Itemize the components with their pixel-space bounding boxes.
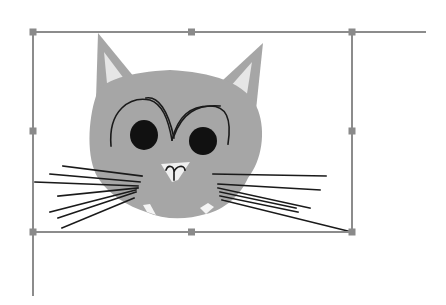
resize-handle-top-right[interactable]: [349, 29, 356, 36]
resize-handle-middle-right[interactable]: [349, 128, 356, 135]
resize-handle-top-left[interactable]: [30, 29, 37, 36]
resize-handle-bottom-left[interactable]: [30, 229, 37, 236]
right-eye: [189, 127, 217, 155]
cat-image[interactable]: [35, 33, 352, 232]
resize-handle-top-middle[interactable]: [188, 29, 195, 36]
left-eye: [130, 120, 158, 150]
resize-handle-bottom-right[interactable]: [349, 229, 356, 236]
drawing-canvas[interactable]: [0, 0, 446, 305]
resize-handle-middle-left[interactable]: [30, 128, 37, 135]
resize-handle-bottom-middle[interactable]: [188, 229, 195, 236]
